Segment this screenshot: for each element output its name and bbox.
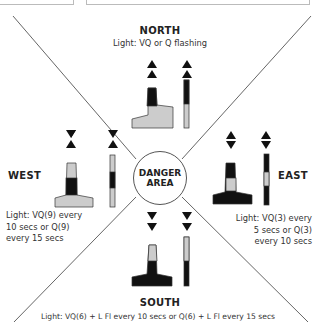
east-title: EAST	[278, 170, 314, 181]
west-light-line: every 15 secs	[6, 233, 106, 245]
east-topmark-icon	[226, 131, 271, 149]
west-topmark-icon	[66, 130, 118, 148]
west-title: WEST	[8, 170, 48, 181]
west-pillar-buoy-icon	[110, 155, 115, 207]
west-light-line: Light: VQ(9) every	[6, 210, 106, 222]
danger-label: DANGER	[139, 168, 181, 178]
north-spar-buoy-icon	[132, 88, 173, 128]
north-topmark-icon	[147, 60, 192, 78]
east-light-line: Light: VQ(3) every	[214, 213, 312, 225]
east-light-line: every 10 secs	[214, 236, 312, 248]
danger-area-circle: DANGER AREA	[133, 151, 187, 205]
west-light-line: 10 secs or Q(9)	[6, 222, 106, 234]
south-topmark-icon	[147, 212, 192, 231]
north-pillar-buoy-icon	[184, 80, 189, 128]
south-light-text: Light: VQ(6) + L Fl every 10 secs or Q(6…	[0, 311, 316, 323]
east-light-text: Light: VQ(3) every 5 secs or Q(3) every …	[214, 213, 312, 248]
north-title: NORTH	[110, 25, 210, 36]
south-spar-buoy-icon	[132, 245, 172, 286]
east-light-line: 5 secs or Q(3)	[214, 225, 312, 237]
east-pillar-buoy-icon	[264, 154, 269, 205]
south-pillar-buoy-icon	[184, 237, 189, 286]
north-light-text: Light: VQ or Q flashing	[95, 38, 225, 50]
east-spar-buoy-icon	[213, 163, 252, 204]
area-label: AREA	[146, 178, 173, 188]
west-spar-buoy-icon	[55, 163, 93, 207]
west-light-text: Light: VQ(9) every 10 secs or Q(9) every…	[6, 210, 106, 245]
south-title: SOUTH	[110, 297, 210, 308]
